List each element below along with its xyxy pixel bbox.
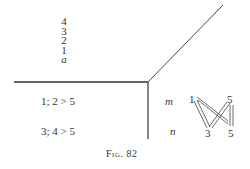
lower-row-label: 3; 4 > 5	[41, 126, 75, 137]
upper-row-label: 1; 2 > 5	[41, 96, 75, 107]
diagram-lines	[0, 0, 250, 169]
stack-labels: 4 3 2 1 a	[59, 17, 69, 65]
row-var-m: m	[165, 96, 173, 107]
figure-caption: Fig. 82	[106, 149, 137, 159]
graph-node-5-bottom: 5	[228, 128, 234, 139]
graph-node-3: 3	[205, 128, 211, 139]
stack-label-variable: a	[59, 55, 69, 65]
diagonal-line	[148, 5, 223, 82]
graph-node-1: 1	[189, 94, 195, 105]
graph-node-5-top: 5	[227, 94, 233, 105]
row-var-n: n	[170, 126, 176, 137]
